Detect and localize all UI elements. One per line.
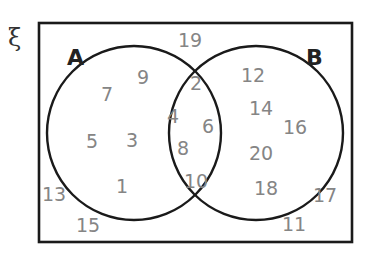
element-15: 15	[76, 214, 100, 236]
element-5: 5	[86, 130, 98, 152]
element-17: 17	[313, 184, 337, 206]
element-2: 2	[190, 72, 202, 94]
element-1: 1	[116, 175, 128, 197]
element-4: 4	[167, 105, 179, 127]
element-20: 20	[249, 142, 273, 164]
element-9: 9	[137, 66, 149, 88]
element-18: 18	[254, 177, 278, 199]
element-14: 14	[249, 97, 273, 119]
set-a-label: A	[67, 45, 84, 70]
element-12: 12	[241, 64, 265, 86]
universal-set-symbol: ξ	[8, 24, 21, 52]
element-10: 10	[184, 170, 208, 192]
element-11: 11	[282, 213, 306, 235]
element-16: 16	[283, 116, 307, 138]
element-3: 3	[126, 129, 138, 151]
element-7: 7	[101, 83, 113, 105]
element-8: 8	[177, 137, 189, 159]
element-6: 6	[202, 115, 214, 137]
element-19: 19	[178, 29, 202, 51]
set-b-label: B	[306, 45, 323, 70]
element-13: 13	[42, 183, 66, 205]
venn-diagram: ξ A B 19 13 15 17 11 7 9 5 3 1 2 4 6 8 1…	[0, 0, 369, 265]
